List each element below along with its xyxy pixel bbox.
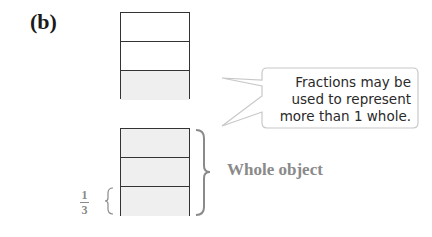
fraction-label: 1 3 [80,189,89,216]
brace-right-icon [196,130,210,215]
callout-line: Fractions may be [262,74,411,91]
brace-left-icon [105,188,113,214]
callout-line: used to represent [262,91,411,108]
callout-text: Fractions may be used to represent more … [262,74,417,125]
callout-line: more than 1 whole. [262,108,411,125]
denominator: 3 [82,203,88,217]
numerator: 1 [82,188,88,202]
whole-object-label: Whole object [227,160,323,180]
